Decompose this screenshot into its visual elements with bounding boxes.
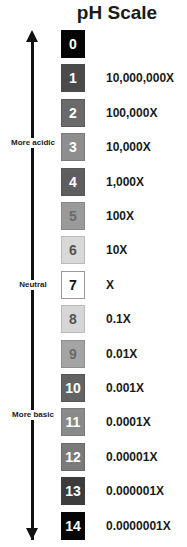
ph-box-3: 3 xyxy=(61,133,85,161)
arrow-down-icon xyxy=(26,528,38,540)
ph-box-12: 12 xyxy=(61,443,85,471)
ph-multiplier-6: 10X xyxy=(106,236,127,264)
label-more-acidic: More acidic xyxy=(8,138,58,148)
ph-multiplier-5: 100X xyxy=(106,202,134,230)
axis-line xyxy=(31,40,34,540)
ph-box-0: 0 xyxy=(61,30,85,58)
label-neutral: Neutral xyxy=(8,280,58,290)
ph-box-1: 1 xyxy=(61,64,85,92)
ph-multiplier-9: 0.01X xyxy=(106,340,137,368)
ph-multiplier-12: 0.00001X xyxy=(106,443,157,471)
ph-box-10: 10 xyxy=(61,374,85,402)
ph-multiplier-7: X xyxy=(106,271,114,299)
label-more-basic: More basic xyxy=(8,410,58,420)
ph-multiplier-11: 0.0001X xyxy=(106,408,151,436)
ph-box-7: 7 xyxy=(61,271,85,299)
chart-title: pH Scale xyxy=(52,2,182,24)
ph-multiplier-4: 1,000X xyxy=(106,168,144,196)
ph-box-9: 9 xyxy=(61,340,85,368)
ph-box-2: 2 xyxy=(61,99,85,127)
ph-box-8: 8 xyxy=(61,305,85,333)
ph-multiplier-14: 0.0000001X xyxy=(106,512,171,540)
ph-multiplier-3: 10,000X xyxy=(106,133,151,161)
ph-multiplier-13: 0.000001X xyxy=(106,477,164,505)
ph-multiplier-2: 100,000X xyxy=(106,99,157,127)
ph-multiplier-10: 0.001X xyxy=(106,374,144,402)
ph-multiplier-8: 0.1X xyxy=(106,305,131,333)
ph-box-6: 6 xyxy=(61,236,85,264)
ph-multiplier-1: 10,000,000X xyxy=(106,64,174,92)
ph-box-13: 13 xyxy=(61,477,85,505)
ph-box-4: 4 xyxy=(61,168,85,196)
ph-box-14: 14 xyxy=(61,512,85,540)
ph-box-11: 11 xyxy=(61,408,85,436)
ph-box-5: 5 xyxy=(61,202,85,230)
